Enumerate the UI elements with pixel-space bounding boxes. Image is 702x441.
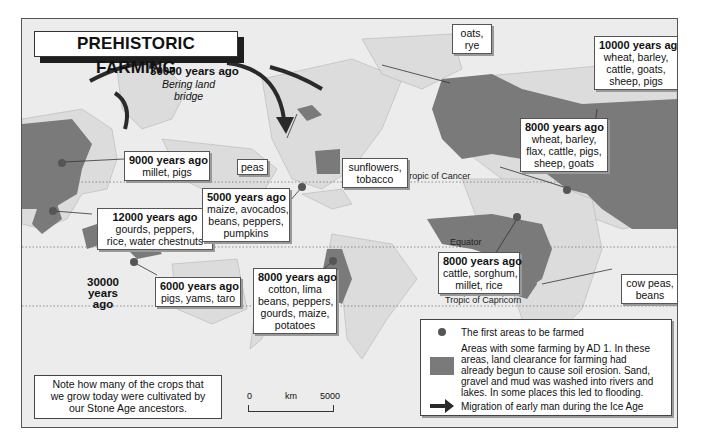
equator-label: Equator [450,237,482,247]
tropic-of-cancer-label: Tropic of Cancer [404,171,470,181]
callout-fertile-crescent: 10000 years ago wheat, barley, cattle, g… [594,36,678,90]
migration-arrow-icon [430,399,454,413]
map-title: PREHISTORIC FARMING [34,31,238,57]
callout-egypt: 8000 years ago wheat, barley, flax, catt… [520,118,608,172]
callout-east-africa: cow peas, beans [621,274,678,304]
callout-peas: peas [237,159,268,175]
map-legend: The first areas to be farmed Areas with … [420,319,672,416]
dot-icon [438,328,446,336]
legend-symbols [427,320,457,415]
callout-west-africa: 8000 years ago cattle, sorghum, millet, … [438,252,520,294]
callout-china: 9000 years ago millet, pigs [124,151,210,181]
callout-new-guinea: 6000 years ago pigs, yams, taro [155,277,241,307]
callout-north-america: sunflowers, tobacco [342,158,408,188]
scale-line [248,405,334,412]
tropic-of-capricorn-label: Tropic of Capricorn [445,295,521,305]
australia-migration-label: 30000 years ago [87,277,119,310]
map-frame: PREHISTORIC FARMING 30000 years ago Beri… [21,18,678,428]
note-box: Note how many of the crops that we grow … [34,375,222,419]
callout-northern-europe: oats, rye [452,24,492,54]
callout-se-asia: 12000 years ago gourds, peppers, rice, w… [97,208,213,250]
legend-farming-areas: Areas with some farming by AD 1. In thes… [461,343,653,398]
scale-bar: 0 km 5000 [247,391,335,416]
callout-mexico: 5000 years ago maize, avocados, beans, p… [202,188,290,242]
legend-migration: Migration of early man during the Ice Ag… [461,401,643,412]
legend-first-areas: The first areas to be farmed [461,327,584,338]
bering-place-label-2: bridge [174,90,203,102]
farmed-area-swatch-icon [430,357,454,375]
callout-andes: 8000 years ago cotton, lima beans, peppe… [253,268,337,334]
